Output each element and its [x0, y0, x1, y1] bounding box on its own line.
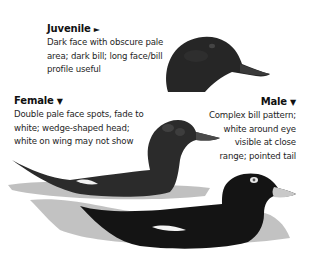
juvenile-line: Dark face with obscure pale — [47, 36, 167, 50]
male-line: Complex bill pattern; — [186, 109, 296, 123]
female-line: Double pale face spots, fade to — [14, 108, 144, 122]
juvenile-line: area; dark bill; long face/bill — [47, 50, 167, 64]
male-title-text: Male — [261, 96, 287, 107]
male-caption: Male▼ Complex bill pattern; white around… — [186, 95, 296, 163]
female-title-text: Female — [14, 95, 54, 106]
juvenile-title-text: Juvenile — [47, 23, 91, 34]
male-line: visible at close — [186, 136, 296, 150]
female-line: white; wedge-shaped head; — [14, 122, 144, 136]
male-title: Male▼ — [186, 95, 296, 109]
arrow-down-icon: ▼ — [290, 98, 296, 107]
male-line: range; pointed tail — [186, 150, 296, 164]
juvenile-title: Juvenile► — [47, 22, 167, 36]
field-guide-plate: Juvenile► Dark face with obscure pale ar… — [0, 0, 310, 268]
female-line: white on wing may not show — [14, 135, 144, 149]
male-line: white around eye — [186, 123, 296, 137]
female-title: Female▼ — [14, 94, 144, 108]
arrow-down-icon: ▼ — [57, 97, 63, 106]
juvenile-caption: Juvenile► Dark face with obscure pale ar… — [47, 22, 167, 77]
female-caption: Female▼ Double pale face spots, fade to … — [14, 94, 144, 149]
juvenile-line: profile useful — [47, 63, 167, 77]
juvenile-head-illustration — [166, 37, 270, 92]
arrow-right-icon: ► — [94, 25, 100, 34]
